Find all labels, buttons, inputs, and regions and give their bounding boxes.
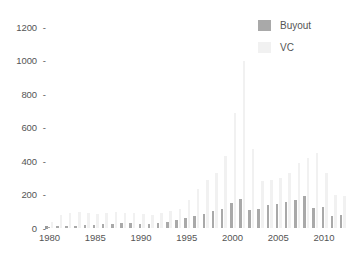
y-axis-tick: 600- bbox=[21, 122, 46, 133]
bar-vc-1993[interactable] bbox=[169, 211, 172, 228]
bar-vc-2006[interactable] bbox=[288, 173, 291, 228]
y-axis-tick-label: 200 bbox=[21, 189, 37, 200]
bar-vc-1986[interactable] bbox=[105, 213, 108, 228]
y-axis-tick-mark: - bbox=[39, 122, 46, 133]
bar-vc-1980[interactable] bbox=[51, 222, 54, 228]
bar-buyout-2012[interactable] bbox=[340, 215, 343, 228]
bar-buyout-2001[interactable] bbox=[239, 199, 242, 228]
bar-vc-1985[interactable] bbox=[96, 214, 99, 228]
y-axis-tick: 400- bbox=[21, 156, 46, 167]
y-axis-tick-label: 400 bbox=[21, 156, 37, 167]
bar-buyout-1985[interactable] bbox=[93, 225, 96, 228]
bar-vc-1997[interactable] bbox=[206, 180, 209, 228]
y-axis-tick-label: 800 bbox=[21, 89, 37, 100]
bar-vc-1999[interactable] bbox=[224, 156, 227, 228]
bar-buyout-2009[interactable] bbox=[312, 208, 315, 228]
bar-buyout-1998[interactable] bbox=[212, 211, 215, 228]
bar-vc-1991[interactable] bbox=[151, 215, 154, 228]
bar-buyout-1982[interactable] bbox=[65, 226, 68, 228]
bar-vc-2008[interactable] bbox=[307, 158, 310, 228]
bar-vc-1990[interactable] bbox=[142, 214, 145, 228]
bar-vc-2012[interactable] bbox=[343, 196, 346, 228]
bar-vc-1989[interactable] bbox=[133, 213, 136, 228]
bar-buyout-1993[interactable] bbox=[166, 222, 169, 228]
bar-buyout-2005[interactable] bbox=[276, 204, 279, 228]
bar-buyout-2003[interactable] bbox=[257, 209, 260, 228]
bar-buyout-1992[interactable] bbox=[157, 223, 160, 228]
legend-label-vc: VC bbox=[280, 42, 294, 53]
bar-buyout-2008[interactable] bbox=[303, 196, 306, 228]
bar-chart-figure: 0-200-400-600-800-1000-1200- 19801985199… bbox=[0, 0, 360, 262]
y-axis-tick-mark: - bbox=[39, 89, 46, 100]
bar-vc-2000[interactable] bbox=[234, 113, 237, 228]
x-axis-tick-label: 1995 bbox=[176, 232, 197, 244]
bar-buyout-1999[interactable] bbox=[221, 209, 224, 228]
bar-vc-1982[interactable] bbox=[69, 213, 72, 228]
bar-vc-2009[interactable] bbox=[316, 153, 319, 228]
y-axis-tick-label: 1200 bbox=[16, 22, 37, 33]
bar-vc-2002[interactable] bbox=[252, 149, 255, 228]
y-axis-tick: 1200- bbox=[16, 22, 46, 33]
bar-buyout-1995[interactable] bbox=[184, 218, 187, 228]
bar-buyout-2011[interactable] bbox=[331, 216, 334, 228]
x-axis-tick-label: 1990 bbox=[131, 232, 152, 244]
chart-legend: Buyout VC bbox=[258, 14, 346, 58]
bar-buyout-1984[interactable] bbox=[84, 225, 87, 228]
y-axis-tick-label: 1000 bbox=[16, 55, 37, 66]
bar-vc-1987[interactable] bbox=[115, 212, 118, 228]
bar-buyout-1988[interactable] bbox=[120, 223, 123, 228]
bar-vc-1992[interactable] bbox=[160, 213, 163, 228]
bar-buyout-2000[interactable] bbox=[230, 203, 233, 228]
bar-vc-1998[interactable] bbox=[215, 173, 218, 228]
y-axis-tick-mark: - bbox=[39, 55, 46, 66]
bar-buyout-2002[interactable] bbox=[248, 210, 251, 228]
bar-buyout-1997[interactable] bbox=[203, 214, 206, 228]
bar-vc-1981[interactable] bbox=[60, 215, 63, 228]
x-axis-tick-label: 2005 bbox=[268, 232, 289, 244]
bar-buyout-1994[interactable] bbox=[175, 220, 178, 228]
bar-vc-2005[interactable] bbox=[279, 178, 282, 228]
bar-buyout-1987[interactable] bbox=[111, 224, 114, 228]
bar-vc-1996[interactable] bbox=[197, 189, 200, 228]
x-axis-tick-label: 1980 bbox=[39, 232, 60, 244]
bar-buyout-2004[interactable] bbox=[267, 205, 270, 228]
bar-vc-1988[interactable] bbox=[124, 213, 127, 228]
bar-vc-2007[interactable] bbox=[298, 163, 301, 228]
y-axis: 0-200-400-600-800-1000-1200- bbox=[0, 0, 48, 262]
legend-swatch-buyout bbox=[258, 20, 271, 31]
legend-item-vc[interactable]: VC bbox=[258, 36, 346, 58]
bar-buyout-1986[interactable] bbox=[102, 224, 105, 228]
y-axis-tick: 1000- bbox=[16, 55, 46, 66]
bar-vc-2004[interactable] bbox=[270, 180, 273, 228]
y-axis-tick-mark: - bbox=[39, 156, 46, 167]
bar-buyout-2007[interactable] bbox=[294, 200, 297, 228]
bar-buyout-2006[interactable] bbox=[285, 202, 288, 228]
x-axis-tick-label: 2000 bbox=[222, 232, 243, 244]
bar-vc-2011[interactable] bbox=[334, 195, 337, 228]
legend-item-buyout[interactable]: Buyout bbox=[258, 14, 346, 36]
bar-buyout-1991[interactable] bbox=[148, 224, 151, 228]
bar-vc-2003[interactable] bbox=[261, 181, 264, 228]
bar-buyout-1989[interactable] bbox=[129, 223, 132, 228]
y-axis-tick-mark: - bbox=[39, 189, 46, 200]
bar-buyout-1996[interactable] bbox=[193, 216, 196, 228]
y-axis-tick-mark: - bbox=[39, 22, 46, 33]
x-axis-tick-label: 1985 bbox=[85, 232, 106, 244]
bar-buyout-1981[interactable] bbox=[56, 226, 59, 228]
y-axis-tick-label: 600 bbox=[21, 122, 37, 133]
x-axis-tick-label: 2010 bbox=[314, 232, 335, 244]
y-axis-tick: 200- bbox=[21, 189, 46, 200]
legend-swatch-vc bbox=[258, 42, 271, 53]
x-axis: 1980198519901995200020052010 bbox=[0, 232, 360, 250]
bar-vc-1994[interactable] bbox=[179, 209, 182, 228]
bar-vc-1984[interactable] bbox=[87, 213, 90, 228]
bar-buyout-2010[interactable] bbox=[322, 207, 325, 228]
bar-buyout-1990[interactable] bbox=[139, 224, 142, 228]
bar-vc-1983[interactable] bbox=[78, 212, 81, 228]
legend-label-buyout: Buyout bbox=[280, 20, 311, 31]
bar-buyout-1983[interactable] bbox=[74, 226, 77, 228]
bar-vc-1995[interactable] bbox=[188, 200, 191, 228]
bar-vc-2010[interactable] bbox=[325, 173, 328, 228]
bar-vc-2001[interactable] bbox=[243, 61, 246, 228]
y-axis-tick: 800- bbox=[21, 89, 46, 100]
